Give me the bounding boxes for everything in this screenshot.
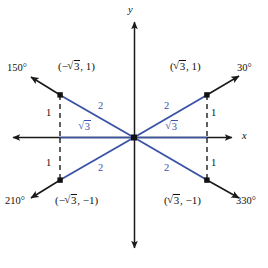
- sqrt-symbol: 3: [166, 120, 178, 133]
- point-dot-q4: [204, 177, 209, 182]
- y-axis-label: y: [128, 5, 133, 16]
- hypotenuse-label-30: 2: [164, 101, 169, 112]
- sqrt-symbol: 3: [65, 194, 77, 207]
- axis-group: [13, 22, 232, 248]
- point-dot-q3: [57, 177, 62, 182]
- hypotenuse-label-150: 2: [98, 101, 103, 112]
- angle-label-30: 30°: [237, 63, 252, 74]
- point-dot-q2: [57, 92, 62, 97]
- point-label-q4: (3, −1): [164, 194, 201, 207]
- hypotenuse-label-330: 2: [164, 163, 169, 174]
- hypotenuse-label-210: 2: [98, 163, 103, 174]
- point-label-q2: (−3, 1): [58, 60, 95, 73]
- point-label-q1-radicand: 3: [179, 60, 186, 73]
- point-label-q3: (−3, −1): [55, 194, 98, 207]
- sqrt-symbol: 3: [168, 194, 180, 207]
- sqrt-symbol: 3: [79, 120, 91, 133]
- point-label-q4-close: , −1): [180, 194, 201, 206]
- adjacent-label-left: 3: [79, 120, 91, 133]
- terminal-ray-150: [60, 95, 134, 138]
- terminal-ray-330: [134, 138, 207, 181]
- angle-arrow-30: [206, 76, 239, 96]
- point-label-q2-radicand: 3: [74, 60, 81, 73]
- adjacent-label-left-radicand: 3: [84, 120, 90, 132]
- angle-arrow-150: [31, 77, 61, 96]
- opposite-label-q2: 1: [46, 108, 51, 119]
- origin-dot: [131, 135, 137, 141]
- point-label-q3-radicand: 3: [71, 194, 78, 207]
- opposite-label-q1: 1: [211, 108, 216, 119]
- point-dot-q1: [204, 92, 209, 97]
- adjacent-label-right: 3: [166, 120, 178, 133]
- point-label-q1-close: , 1): [186, 60, 201, 72]
- point-label-q2-close: , 1): [80, 60, 95, 72]
- trigonometry-diagram: y x 150° 30° 210° 330° (−3, 1) (3, 1) (−…: [0, 0, 268, 268]
- adjacent-label-right-radicand: 3: [171, 120, 177, 132]
- point-label-q1: (3, 1): [170, 60, 201, 73]
- angle-arrow-330: [206, 180, 239, 199]
- sqrt-symbol: 3: [68, 60, 80, 73]
- x-axis-label: x: [242, 131, 247, 142]
- point-label-q3-close: , −1): [77, 194, 98, 206]
- diagram-canvas: [0, 0, 268, 268]
- angle-label-210: 210°: [5, 196, 25, 207]
- sqrt-symbol: 3: [174, 60, 186, 73]
- angle-label-150: 150°: [7, 63, 27, 74]
- angle-label-330: 330°: [236, 196, 256, 207]
- point-label-q4-radicand: 3: [173, 194, 180, 207]
- opposite-label-q3: 1: [46, 158, 51, 169]
- opposite-label-q4: 1: [211, 158, 216, 169]
- terminal-ray-210: [60, 138, 134, 181]
